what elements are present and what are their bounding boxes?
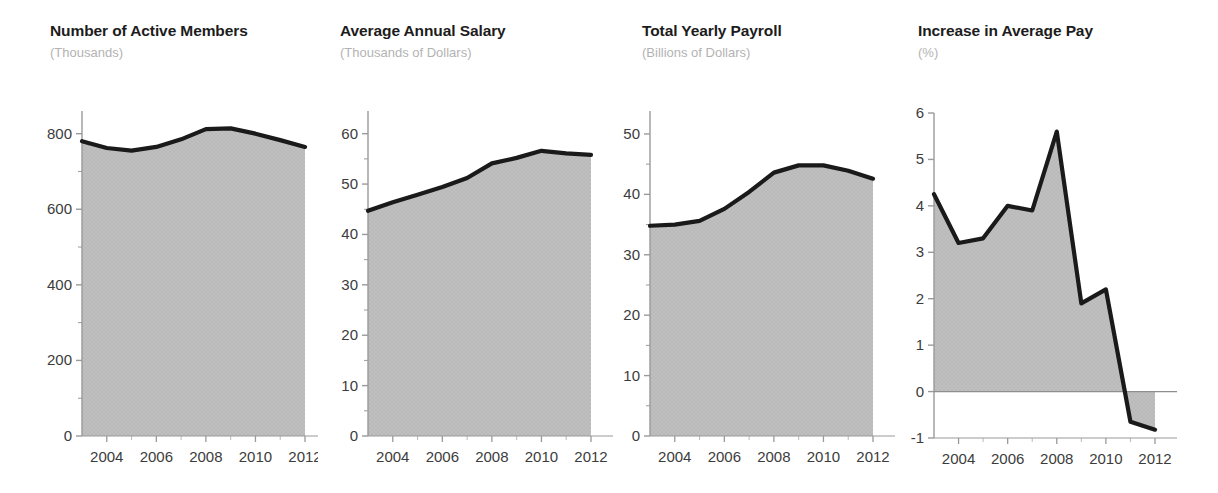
y-tick-label: 30	[623, 246, 640, 263]
y-tick-label: 30	[341, 276, 358, 293]
plot-area-0: 020040060080020042006200820102012	[0, 0, 318, 493]
x-tick-label: 2012	[1138, 450, 1171, 467]
y-tick-label: 10	[623, 367, 640, 384]
y-tick-label: 40	[623, 185, 640, 202]
area-fill-0	[82, 128, 305, 436]
y-tick-label: 0	[916, 383, 924, 400]
plot-area-1: 010203040506020042006200820102012	[300, 0, 618, 493]
y-tick-label: 50	[341, 175, 358, 192]
chart-panel-average-salary: Average Annual Salary (Thousands of Doll…	[300, 0, 618, 493]
y-tick-label: 0	[632, 427, 640, 444]
x-tick-label: 2008	[1040, 450, 1073, 467]
y-tick-label: 50	[623, 125, 640, 142]
figure-panel-group: Number of Active Members (Thousands) 020…	[0, 0, 1218, 493]
x-tick-label: 2006	[708, 448, 741, 465]
y-tick-label: -1	[911, 429, 924, 446]
x-tick-label: 2008	[475, 448, 508, 465]
y-tick-label: 3	[916, 243, 924, 260]
chart-svg-0: 020040060080020042006200820102012	[0, 0, 318, 493]
x-tick-label: 2010	[239, 448, 272, 465]
x-tick-label: 2004	[376, 448, 409, 465]
y-tick-label: 5	[916, 150, 924, 167]
x-tick-label: 2010	[807, 448, 840, 465]
y-tick-label: 1	[916, 336, 924, 353]
y-tick-label: 800	[47, 125, 72, 142]
y-tick-label: 400	[47, 276, 72, 293]
y-tick-label: 20	[341, 326, 358, 343]
y-tick-label: 60	[341, 125, 358, 142]
x-tick-label: 2006	[991, 450, 1024, 467]
plot-area-2: 0102030405020042006200820102012	[600, 0, 918, 493]
area-fill-1	[368, 151, 591, 436]
chart-svg-3: -1012345620042006200820102012	[880, 0, 1218, 493]
x-tick-label: 2010	[525, 448, 558, 465]
y-tick-label: 40	[341, 225, 358, 242]
plot-area-3: -1012345620042006200820102012	[880, 0, 1218, 493]
chart-svg-1: 010203040506020042006200820102012	[300, 0, 618, 493]
x-tick-label: 2006	[140, 448, 173, 465]
x-tick-label: 2010	[1089, 450, 1122, 467]
x-tick-label: 2008	[189, 448, 222, 465]
chart-panel-active-members: Number of Active Members (Thousands) 020…	[0, 0, 318, 493]
y-tick-label: 20	[623, 306, 640, 323]
x-tick-label: 2006	[426, 448, 459, 465]
x-tick-label: 2004	[942, 450, 975, 467]
area-fill-2	[650, 165, 873, 436]
chart-svg-2: 0102030405020042006200820102012	[600, 0, 918, 493]
y-tick-label: 600	[47, 200, 72, 217]
y-tick-label: 4	[916, 197, 924, 214]
y-tick-label: 2	[916, 290, 924, 307]
y-tick-label: 10	[341, 377, 358, 394]
x-tick-label: 2004	[90, 448, 123, 465]
x-tick-label: 2004	[658, 448, 691, 465]
y-tick-label: 0	[350, 427, 358, 444]
x-tick-label: 2008	[757, 448, 790, 465]
chart-panel-total-payroll: Total Yearly Payroll (Billions of Dollar…	[600, 0, 918, 493]
chart-panel-increase-average-pay: Increase in Average Pay (%) -10123456200…	[880, 0, 1218, 493]
y-tick-label: 200	[47, 351, 72, 368]
y-tick-label: 0	[64, 427, 72, 444]
y-tick-label: 6	[916, 104, 924, 121]
